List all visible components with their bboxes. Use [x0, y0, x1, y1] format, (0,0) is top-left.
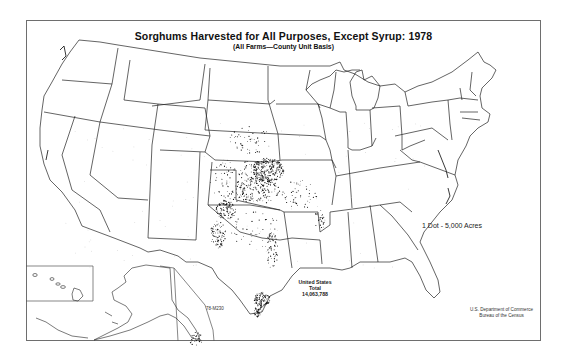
map-code: 78-M230 — [206, 306, 224, 311]
hawaii-inset — [33, 274, 83, 302]
inset-frames — [26, 266, 214, 341]
state-boundaries — [40, 40, 496, 314]
alaska-inset — [36, 265, 200, 340]
source-credit: U.S. Department of Commerce Bureau of th… — [470, 307, 533, 318]
coast-detail — [46, 46, 450, 204]
credit-department: U.S. Department of Commerce — [470, 307, 533, 313]
dot-legend: 1 Dot - 5,000 Acres — [422, 222, 482, 229]
dot-density-layer — [66, 123, 426, 346]
credit-bureau: Bureau of the Census — [470, 313, 533, 319]
total-value: 14,063,788 — [285, 291, 345, 297]
us-total: United States Total 14,063,788 — [285, 279, 345, 297]
